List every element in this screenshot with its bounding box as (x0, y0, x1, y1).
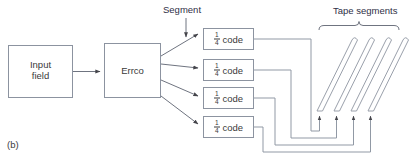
figure-panel-b: Input field Errco 1 4 code 1 4 code 1 4 … (0, 0, 416, 157)
code-box-4 (204, 117, 254, 138)
routing-code4-to-tape4 (253, 116, 371, 152)
code-box-2 (204, 60, 254, 81)
tape-segment-1 (317, 38, 358, 111)
fanout-errco-to-code-boxes (161, 34, 198, 124)
diagram-canvas (0, 0, 416, 157)
block-input-field (9, 46, 73, 98)
panel-letter: (b) (7, 139, 19, 150)
code-box-3 (204, 88, 254, 109)
block-errco (105, 44, 161, 98)
tape-segments-brace (319, 22, 399, 31)
routing-code1-to-tape1 (253, 39, 320, 131)
code-box-1 (204, 29, 254, 50)
